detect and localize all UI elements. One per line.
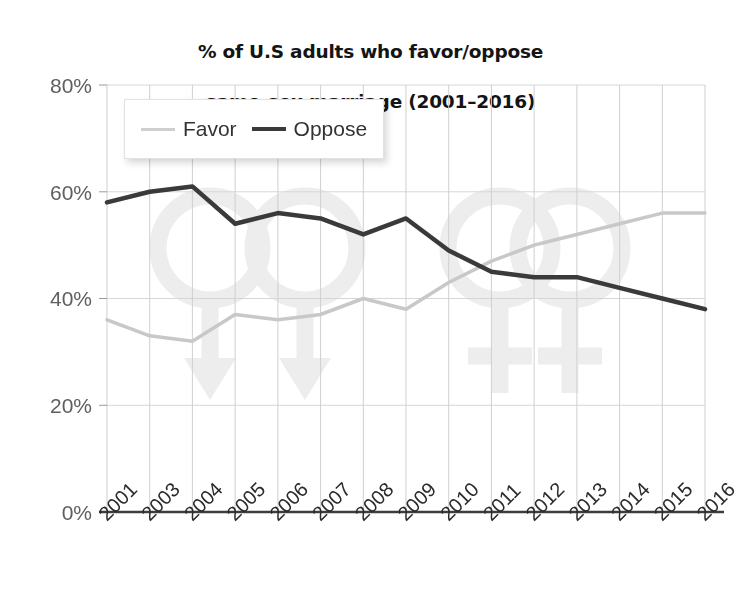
x-tick-label-2001: 2001	[94, 478, 141, 525]
x-tick-label-2007: 2007	[308, 478, 355, 525]
chart-container: % of U.S adults who favor/oppose same-se…	[0, 0, 741, 591]
y-tick-label-80: 80%	[50, 74, 92, 97]
legend-swatch-favor-icon	[141, 128, 175, 131]
x-axis-tick-labels: 2001 2003 2004 2005 2006 2007 2008 2009 …	[94, 478, 739, 525]
x-tick-label-2010: 2010	[436, 478, 483, 525]
legend-item-favor: Favor	[141, 117, 237, 141]
y-tick-label-20: 20%	[50, 394, 92, 417]
legend-label-favor: Favor	[183, 117, 237, 141]
x-tick-label-2009: 2009	[393, 478, 440, 525]
x-tick-label-2012: 2012	[521, 478, 568, 525]
y-axis-ticks	[99, 85, 107, 405]
y-tick-label-0: 0%	[62, 501, 92, 524]
x-tick-label-2003: 2003	[137, 478, 184, 525]
line-chart-plot: 80% 60% 40% 20% 0% 2001 2003 2004 2005 2…	[0, 0, 741, 591]
legend-swatch-oppose-icon	[252, 127, 286, 131]
x-tick-label-2016: 2016	[692, 478, 739, 525]
x-tick-label-2005: 2005	[222, 478, 269, 525]
x-tick-label-2004: 2004	[180, 478, 227, 525]
x-tick-label-2014: 2014	[607, 478, 654, 525]
legend-label-oppose: Oppose	[294, 117, 368, 141]
legend-item-oppose: Oppose	[252, 117, 368, 141]
x-tick-label-2013: 2013	[564, 478, 611, 525]
y-tick-label-40: 40%	[50, 287, 92, 310]
chart-legend: Favor Oppose	[124, 99, 384, 159]
x-tick-label-2011: 2011	[479, 479, 525, 525]
y-tick-label-60: 60%	[50, 181, 92, 204]
x-tick-label-2015: 2015	[650, 478, 697, 525]
x-tick-label-2008: 2008	[351, 478, 398, 525]
x-tick-label-2006: 2006	[265, 478, 312, 525]
